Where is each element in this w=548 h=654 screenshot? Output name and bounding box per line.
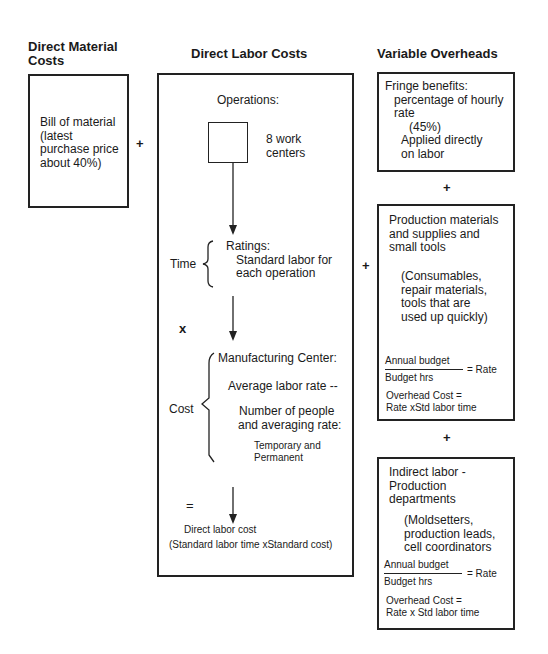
detail-line: (Moldsetters, <box>404 514 495 528</box>
people-rate-line: and averaging rate: <box>238 419 341 433</box>
plus-operator-4: + <box>443 430 451 445</box>
fringe-benefits-box: Fringe benefits: percentage of hourly ra… <box>377 72 515 172</box>
temp-perm-line: Permanent <box>254 452 321 464</box>
detail-line: production leads, <box>404 528 495 542</box>
rate-label: = Rate <box>467 568 497 579</box>
ratings-text: Ratings: Standard labor for each operati… <box>226 240 332 281</box>
overhead-line: Rate xStd labor time <box>386 402 477 414</box>
rate-label: = Rate <box>467 364 497 375</box>
production-materials-box: Production materials and supplies and sm… <box>377 204 515 421</box>
equals-operator: = <box>186 498 194 513</box>
overhead-line: Overhead Cost = <box>386 390 477 402</box>
overhead-line: Overhead Cost = <box>386 595 479 607</box>
result-formula: (Standard labor time xStandard cost) <box>169 539 332 551</box>
indirect-labor-detail: (Moldsetters, production leads, cell coo… <box>404 514 495 555</box>
fringe-percent: (45%) <box>385 121 503 135</box>
fringe-line: rate <box>385 107 503 121</box>
overhead-line: Rate x Std labor time <box>386 607 479 619</box>
fringe-title: Fringe benefits: <box>385 80 503 94</box>
rate-fraction: Annual budget Budget hrs <box>385 355 463 384</box>
overhead-cost-text: Overhead Cost = Rate xStd labor time <box>386 390 477 414</box>
detail-line: used up quickly) <box>401 311 488 325</box>
plus-operator-2: + <box>362 258 370 273</box>
temp-perm-line: Temporary and <box>254 440 321 452</box>
cost-label: Cost <box>169 403 194 417</box>
title-line: departments <box>389 493 466 507</box>
production-materials-detail: (Consumables, repair materials, tools th… <box>401 270 488 324</box>
fringe-applied: on labor <box>385 148 503 162</box>
indirect-labor-title: Indirect labor - Production departments <box>389 466 466 507</box>
people-rate-line: Number of people <box>239 405 341 419</box>
title-line: small tools <box>389 241 498 255</box>
plus-operator-3: + <box>443 180 451 195</box>
overhead-cost-text: Overhead Cost = Rate x Std labor time <box>386 595 479 619</box>
title-line: Production materials <box>389 214 498 228</box>
time-label: Time <box>170 258 196 272</box>
detail-line: cell coordinators <box>404 541 495 555</box>
fraction-numerator: Annual budget <box>384 559 462 574</box>
detail-line: (Consumables, <box>401 270 488 284</box>
fringe-line: percentage of hourly <box>385 94 503 108</box>
ratings-title: Ratings: <box>226 240 332 254</box>
ratings-line: each operation <box>226 267 332 281</box>
fringe-applied: Applied directly <box>385 134 503 148</box>
rate-fraction: Annual budget Budget hrs <box>384 559 462 588</box>
indirect-labor-box: Indirect labor - Production departments … <box>377 457 515 630</box>
temp-perm-text: Temporary and Permanent <box>254 440 321 464</box>
fraction-denominator: Budget hrs <box>385 370 463 384</box>
production-materials-title: Production materials and supplies and sm… <box>389 214 498 255</box>
detail-line: tools that are <box>401 297 488 311</box>
average-rate-label: Average labor rate -- <box>228 380 338 394</box>
title-line: Production <box>389 480 466 494</box>
result-label: Direct labor cost <box>184 524 256 536</box>
fraction-denominator: Budget hrs <box>384 574 462 588</box>
detail-line: repair materials, <box>401 284 488 298</box>
manufacturing-center-label: Manufacturing Center: <box>218 352 337 366</box>
fringe-text: Fringe benefits: percentage of hourly ra… <box>385 80 503 161</box>
title-line: and supplies and <box>389 228 498 242</box>
ratings-line: Standard labor for <box>226 254 332 268</box>
people-rate-text: Number of people and averaging rate: <box>239 405 341 432</box>
times-operator: x <box>179 321 186 336</box>
fraction-numerator: Annual budget <box>385 355 463 370</box>
title-line: Indirect labor - <box>389 466 466 480</box>
